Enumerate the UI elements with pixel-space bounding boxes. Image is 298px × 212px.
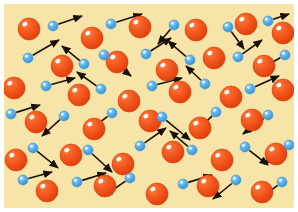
small-particle-body [231,175,241,185]
small-particle-highlight [143,51,146,54]
small-particle [187,145,197,155]
small-particle [48,21,58,31]
small-particle-body [18,175,28,185]
small-particle-highlight [25,55,28,58]
small-particle-highlight [235,54,238,57]
large-particle [129,16,151,38]
small-particle-highlight [189,147,192,150]
large-particle-body [169,81,191,103]
small-particle [178,179,188,189]
large-particle [25,111,47,133]
small-particle [263,16,273,26]
small-particle-highlight [265,18,268,21]
small-particle-highlight [180,181,183,184]
large-particle-body [253,55,275,77]
small-particle [284,140,294,150]
large-particle-body [211,149,233,171]
small-particle [231,175,241,185]
large-particle [211,149,233,171]
large-particle-body [197,175,219,197]
small-particle-body [141,49,151,59]
field-background [4,4,294,208]
small-particle-highlight [43,83,46,86]
small-particle-highlight [282,52,285,55]
large-particle [251,181,273,203]
small-particle-body [59,111,69,121]
small-particle-body [99,50,109,60]
small-particle-body [72,177,82,187]
large-particle-body [81,27,103,49]
large-particle-body [146,183,168,205]
small-particle-highlight [85,147,88,150]
large-particle-body [235,13,257,35]
small-particle-highlight [286,142,289,145]
small-particle-highlight [225,24,228,27]
small-particle-highlight [171,22,174,25]
small-particle-highlight [149,83,152,86]
small-particle [59,111,69,121]
large-particle [68,84,90,106]
large-particle [220,86,242,108]
small-particle [277,177,287,187]
small-particle-highlight [20,177,23,180]
large-particle-body [18,18,40,40]
small-particle [72,177,82,187]
small-particle-body [157,112,167,122]
small-particle [6,109,16,119]
large-particle-body [265,143,287,165]
large-particle-body [60,144,82,166]
large-particle-body [106,51,128,73]
large-particle [60,144,82,166]
small-particle-body [277,177,287,187]
small-particle [147,81,157,91]
large-particle [203,47,225,69]
large-particle-body [118,90,140,112]
large-particle-body [185,19,207,41]
small-particle-body [178,179,188,189]
large-particle-body [156,59,178,81]
small-particle [96,84,106,94]
small-particle-highlight [247,86,250,89]
small-particle-body [211,107,221,117]
large-particle [139,110,161,132]
small-particle [135,141,145,151]
small-particle-highlight [187,57,190,60]
large-particle-body [272,79,294,101]
small-particle-highlight [74,179,77,182]
small-particle-highlight [202,81,205,84]
large-particle-body [220,86,242,108]
small-particle [83,145,93,155]
small-particle-body [41,81,51,91]
large-particle [185,19,207,41]
large-particle-body [36,180,58,202]
small-particle-body [187,145,197,155]
large-particle [83,118,105,140]
small-particle-highlight [61,113,64,116]
large-particle-body [241,109,263,131]
small-particle-body [147,81,157,91]
large-particle [18,18,40,40]
small-particle-highlight [101,52,104,55]
small-particle-highlight [50,23,53,26]
small-particle-body [107,108,117,118]
small-particle-highlight [8,111,11,114]
small-particle [99,50,109,60]
small-particle-body [185,55,195,65]
large-particle [36,180,58,202]
small-particle [157,112,167,122]
large-particle [118,90,140,112]
large-particle-body [83,118,105,140]
small-particle-body [263,110,273,120]
large-particle [112,153,134,175]
large-particle-body [3,77,25,99]
large-particle-body [94,175,116,197]
large-particle [272,79,294,101]
large-particle [51,55,73,77]
small-particle-highlight [127,175,130,178]
large-particle-body [162,141,184,163]
particle-diagram-figure [0,0,298,212]
small-particle [211,107,221,117]
small-particle-body [83,145,93,155]
small-particle-highlight [242,144,245,147]
small-particle [280,50,290,60]
